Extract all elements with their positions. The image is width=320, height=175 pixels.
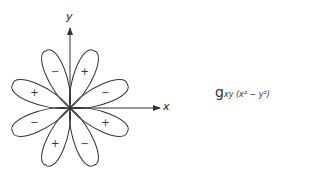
lobe-sign: −: [81, 138, 89, 149]
lobe-sign: −: [51, 66, 59, 77]
lobe-sign: −: [30, 117, 38, 128]
lobe-sign: +: [101, 117, 109, 128]
equation-main: g: [215, 84, 224, 100]
lobe-sign: +: [51, 138, 59, 149]
lobe-sign: −: [101, 87, 109, 98]
equation-subscript: xy (x² − y²): [224, 90, 270, 99]
lobe-sign: +: [81, 66, 89, 77]
y-axis-label: y: [66, 10, 73, 23]
equation-label: gxy (x² − y²): [215, 82, 270, 101]
lobe-sign: +: [30, 87, 38, 98]
x-axis-label: x: [163, 100, 170, 113]
